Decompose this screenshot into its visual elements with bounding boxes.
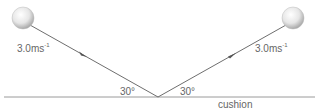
arrow-icon-outgoing	[228, 53, 236, 59]
angle-in-label: 30°	[120, 87, 135, 97]
ball-final	[282, 7, 304, 29]
ball-initial	[12, 7, 34, 29]
incoming-velocity-label: 3.0ms-1	[17, 43, 50, 54]
outgoing-velocity-label: 3.0ms-1	[255, 43, 288, 54]
diagram-graphics	[0, 0, 317, 112]
cushion-label: cushion	[218, 100, 252, 110]
outgoing-unit-exponent: -1	[282, 42, 287, 48]
ball-rebound-diagram: 3.0ms-1 3.0ms-1 30° 30° cushion	[0, 0, 317, 112]
incoming-speed-text: 3.0ms	[17, 43, 44, 54]
outgoing-speed-text: 3.0ms	[255, 43, 282, 54]
incoming-unit-exponent: -1	[44, 42, 49, 48]
incoming-path	[30, 25, 158, 97]
outgoing-path	[158, 25, 286, 97]
angle-out-label: 30°	[180, 87, 195, 97]
